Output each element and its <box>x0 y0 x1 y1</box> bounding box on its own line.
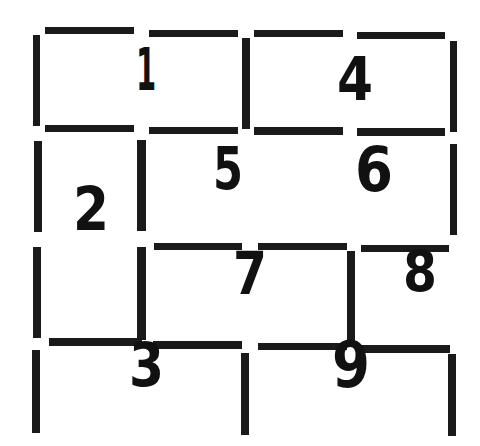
vertical-wall-segment <box>450 41 457 132</box>
vertical-wall-segment <box>241 353 249 435</box>
horizontal-wall-segment <box>254 127 343 135</box>
cell-number-5: 5 <box>213 139 243 198</box>
vertical-wall-segment <box>33 247 41 338</box>
horizontal-wall-segment <box>45 27 134 34</box>
vertical-wall-segment <box>450 144 457 235</box>
horizontal-wall-segment <box>45 125 134 132</box>
cell-number-9: 9 <box>332 334 370 397</box>
horizontal-wall-segment <box>361 345 450 353</box>
horizontal-wall-segment <box>149 30 238 37</box>
cell-number-7: 7 <box>233 245 267 303</box>
vertical-wall-segment <box>33 35 40 126</box>
horizontal-wall-segment <box>154 243 242 250</box>
vertical-wall-segment <box>137 140 146 231</box>
vertical-wall-segment <box>32 350 40 433</box>
cell-number-2: 2 <box>73 179 109 240</box>
vertical-wall-segment <box>242 38 250 129</box>
cell-number-6: 6 <box>355 139 393 201</box>
numbered-grid-diagram: 123456789 <box>0 0 480 446</box>
vertical-wall-segment <box>137 247 146 340</box>
horizontal-wall-segment <box>254 30 343 37</box>
cell-number-1: 1 <box>136 41 156 99</box>
horizontal-wall-segment <box>258 243 347 250</box>
horizontal-wall-segment <box>153 341 242 349</box>
cell-number-8: 8 <box>403 244 437 301</box>
cell-number-3: 3 <box>129 335 164 396</box>
vertical-wall-segment <box>34 141 42 232</box>
horizontal-wall-segment <box>357 32 445 39</box>
vertical-wall-segment <box>448 354 456 436</box>
cell-number-4: 4 <box>337 49 373 110</box>
